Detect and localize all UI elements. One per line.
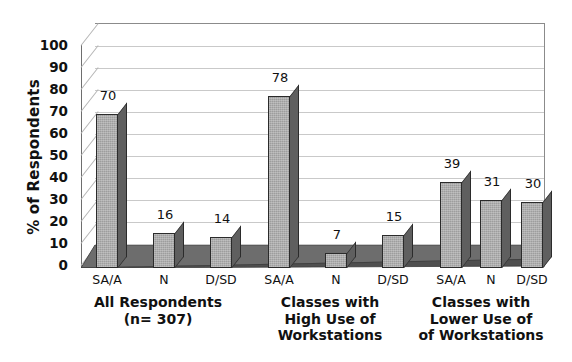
bar-front-face <box>382 235 404 268</box>
y-tick-label: 10 <box>38 237 68 251</box>
bar-group-1-dsd: 14 <box>210 237 241 268</box>
gridline <box>95 68 544 69</box>
gridline <box>95 156 544 157</box>
chart-floor-3d <box>81 245 545 268</box>
y-axis-line <box>81 45 82 268</box>
bar-front-face <box>325 253 347 268</box>
bar-front-face <box>480 200 502 268</box>
gridline <box>95 112 544 113</box>
x-tick-label-3: D/SD <box>193 272 249 287</box>
bar-value-label: 15 <box>373 209 415 224</box>
group-caption-line: All Respondents <box>63 294 253 311</box>
bar-value-label: 39 <box>431 156 473 171</box>
gridline <box>95 134 544 135</box>
bar-side-face <box>502 188 511 268</box>
group-caption-lower-use: Classes with Lower Use of of Workstation… <box>386 294 572 344</box>
bar-side-face <box>462 170 471 268</box>
x-tick-label-4: SA/A <box>251 272 307 287</box>
bar-group-2-saa: 78 <box>268 96 299 268</box>
bar-group-3-dsd: 30 <box>521 202 552 268</box>
y-tick-label: 90 <box>38 61 68 75</box>
x-tick-label-5: N <box>308 272 364 287</box>
bar-value-label: 14 <box>201 211 243 226</box>
y-tick-label: 70 <box>38 105 68 119</box>
gridline <box>95 222 544 223</box>
bar-group-3-n: 31 <box>480 200 511 268</box>
y-tick-label: 60 <box>38 127 68 141</box>
group-caption-line: Classes with <box>386 294 572 311</box>
gridline <box>95 46 544 47</box>
bar-side-face <box>543 190 552 268</box>
bar-group-2-dsd: 15 <box>382 235 413 268</box>
bar-group-1-n: 16 <box>153 233 184 268</box>
gridline <box>95 90 544 91</box>
bar-group-3-saa: 39 <box>440 182 471 268</box>
gridline <box>95 200 544 201</box>
x-tick-label-1: SA/A <box>79 272 135 287</box>
bar-group-1-saa: 70 <box>96 114 127 268</box>
bar-side-face <box>118 102 127 268</box>
y-tick-label: 100 <box>38 39 68 53</box>
group-caption-line: of Workstations <box>386 327 572 344</box>
x-tick-label-6: D/SD <box>365 272 421 287</box>
bar-chart: % of Respondents 100 90 80 70 60 50 40 3… <box>0 0 572 362</box>
bar-group-2-n: 7 <box>325 253 356 268</box>
bar-front-face <box>521 202 543 268</box>
y-tick-label: 20 <box>38 215 68 229</box>
bar-front-face <box>153 233 175 268</box>
y-tick-label: 80 <box>38 83 68 97</box>
x-tick-label-2: N <box>136 272 192 287</box>
group-caption-line: (n= 307) <box>63 311 253 328</box>
x-tick-label-9: D/SD <box>504 272 560 287</box>
bar-front-face <box>210 237 232 268</box>
bar-side-face <box>290 84 299 268</box>
bar-front-face <box>96 114 118 268</box>
bar-value-label: 31 <box>471 174 513 189</box>
bar-value-label: 78 <box>259 70 301 85</box>
bar-value-label: 30 <box>512 176 554 191</box>
y-tick-label: 50 <box>38 149 68 163</box>
group-caption-line: Lower Use of <box>386 311 572 328</box>
bar-front-face <box>440 182 462 268</box>
y-tick-label: 0 <box>38 259 68 273</box>
bar-value-label: 16 <box>144 207 186 222</box>
bar-front-face <box>268 96 290 268</box>
bar-value-label: 7 <box>316 227 358 242</box>
group-caption-all-respondents: All Respondents (n= 307) <box>63 294 253 327</box>
bar-value-label: 70 <box>87 88 129 103</box>
y-tick-label: 40 <box>38 171 68 185</box>
y-tick-label: 30 <box>38 193 68 207</box>
